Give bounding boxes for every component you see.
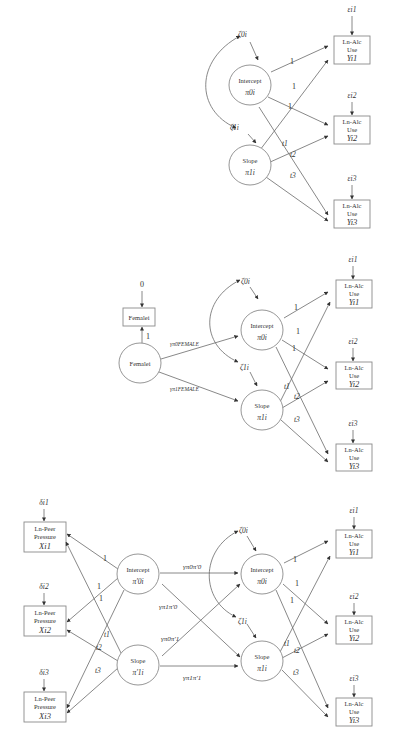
female-observed-box: Femalei — [123, 308, 155, 326]
svg-text:Yi2: Yi2 — [347, 133, 358, 143]
outcome-y2: εi2 Ln-Alc Use Yi2 — [336, 592, 372, 644]
intercept-latent: Intercept π0i — [241, 554, 283, 594]
outcome-y3: εi3 Ln-Alc Use Yi3 — [336, 674, 372, 726]
slope-to-y2 — [268, 136, 328, 163]
outcome-y1: εi1 Ln-Alc Use Yi1 — [334, 5, 370, 64]
svg-text:Yi3: Yi3 — [349, 461, 360, 471]
svg-text:δi3: δi3 — [39, 668, 49, 677]
outcome-y3: εi3 Ln-Alc Use Yi3 — [334, 174, 370, 228]
svg-text:Use: Use — [349, 454, 359, 461]
svg-text:t2: t2 — [294, 646, 300, 655]
svg-text:ζ1i: ζ1i — [238, 617, 247, 626]
predictor-intercept-latent: Intercept π′0i — [117, 554, 159, 594]
predictor-x2: δi2 Ln-Peer Pressure Xi2 — [24, 582, 66, 636]
zeta1-arrow — [248, 134, 256, 143]
svg-text:Xi1: Xi1 — [38, 541, 51, 551]
outcome-y1: εi1 Ln-Alc Use Yi1 — [336, 255, 372, 308]
fixed-zero-label: 0 — [140, 280, 144, 289]
svg-text:Intercept: Intercept — [250, 322, 273, 329]
svg-text:Ln-Alc: Ln-Alc — [345, 364, 364, 371]
svg-text:Pressure: Pressure — [34, 533, 56, 540]
svg-text:Yi2: Yi2 — [349, 633, 360, 643]
svg-text:π′1i: π′1i — [132, 668, 143, 677]
intercept-latent: Intercept π0i — [241, 310, 283, 350]
zeta-covariance-arrow — [210, 280, 240, 362]
svg-text:εi3: εi3 — [350, 674, 359, 683]
slope-latent: Slope π1i — [229, 145, 271, 185]
svg-text:t1: t1 — [284, 639, 290, 648]
outcome-y3: εi3 Ln-Alc Use Yi3 — [336, 419, 372, 471]
svg-text:π0i: π0i — [257, 577, 267, 586]
svg-text:Use: Use — [349, 708, 359, 715]
svg-text:t1: t1 — [284, 382, 290, 391]
svg-text:π1i: π1i — [257, 413, 267, 422]
slope-to-y3 — [266, 177, 328, 221]
intercept-to-y2 — [268, 97, 328, 125]
svg-text:εi3: εi3 — [349, 419, 358, 428]
svg-text:Xi2: Xi2 — [38, 625, 52, 635]
svg-text:1: 1 — [293, 555, 297, 564]
svg-text:1: 1 — [146, 332, 150, 341]
svg-text:t3: t3 — [294, 415, 300, 424]
svg-text:εi2: εi2 — [350, 592, 359, 601]
svg-text:εi3: εi3 — [348, 174, 357, 183]
svg-text:ζ1i: ζ1i — [240, 363, 249, 372]
svg-text:Ln-Alc: Ln-Alc — [343, 202, 362, 209]
slope-to-y1 — [260, 60, 328, 150]
svg-text:γπ1π′0: γπ1π′0 — [159, 603, 178, 611]
svg-text:Slope: Slope — [255, 653, 270, 660]
svg-text:Intercept: Intercept — [250, 566, 273, 573]
svg-text:Ln-Alc: Ln-Alc — [345, 700, 364, 707]
svg-text:Yi3: Yi3 — [347, 217, 358, 227]
svg-text:Xi3: Xi3 — [38, 711, 51, 721]
svg-text:t1: t1 — [104, 630, 110, 639]
panel-c-parallel-process-model: δi1 Ln-Peer Pressure Xi1 δi2 Ln-Peer Pre… — [24, 498, 372, 726]
svg-text:Ln-Alc: Ln-Alc — [343, 38, 362, 45]
svg-text:Yi3: Yi3 — [349, 715, 360, 725]
svg-text:1: 1 — [295, 579, 299, 588]
svg-text:Ln-Peer: Ln-Peer — [35, 609, 57, 616]
svg-text:Ln-Peer: Ln-Peer — [35, 525, 57, 532]
svg-text:1: 1 — [292, 344, 296, 353]
svg-text:Slope: Slope — [243, 157, 258, 164]
svg-text:Pressure: Pressure — [34, 617, 56, 624]
svg-text:γπ1π′1: γπ1π′1 — [183, 674, 201, 682]
svg-text:γπ0FEMALE: γπ0FEMALE — [170, 341, 199, 347]
predictor-slope-latent: Slope π′1i — [117, 645, 159, 685]
predictor-x1: δi1 Ln-Peer Pressure Xi1 — [24, 498, 66, 552]
svg-text:Ln-Alc: Ln-Alc — [345, 618, 364, 625]
svg-text:Femalei: Femalei — [129, 314, 150, 321]
loading-label: t3 — [290, 171, 296, 180]
svg-text:1: 1 — [294, 303, 298, 312]
svg-text:Slope: Slope — [131, 657, 146, 664]
zeta-covariance-arrow — [209, 531, 238, 617]
svg-text:Use: Use — [349, 290, 359, 297]
path-diagram-canvas: ζ0i ζ1i 1 1 1 t1 t2 t3 Intercept π0i Slo… — [0, 0, 396, 740]
svg-text:Use: Use — [349, 626, 359, 633]
svg-text:1: 1 — [103, 554, 107, 563]
outcome-y1: εi1 Ln-Alc Use Yi1 — [336, 506, 372, 558]
svg-text:Use: Use — [347, 46, 357, 53]
female-latent: Femalei — [119, 343, 161, 383]
svg-text:π1i: π1i — [257, 664, 267, 673]
svg-text:1: 1 — [296, 327, 300, 336]
svg-text:εi2: εi2 — [348, 91, 357, 100]
svg-text:π0i: π0i — [257, 333, 267, 342]
loading-label: 1 — [292, 82, 296, 91]
loading-label: 1 — [288, 102, 292, 111]
svg-text:Ln-Alc: Ln-Alc — [345, 446, 364, 453]
svg-text:Ln-Alc: Ln-Alc — [345, 282, 364, 289]
svg-text:Use: Use — [347, 126, 357, 133]
svg-text:ζ0i: ζ0i — [241, 277, 250, 286]
svg-text:ζ0i: ζ0i — [239, 526, 248, 535]
svg-text:Ln-Alc: Ln-Alc — [345, 532, 364, 539]
intercept-to-y1 — [271, 46, 328, 72]
intercept-latent: Intercept π0i — [229, 65, 271, 105]
svg-text:εi1: εi1 — [350, 506, 359, 515]
svg-text:εi1: εi1 — [349, 255, 358, 264]
svg-text:γπ0π′1: γπ0π′1 — [161, 635, 179, 643]
svg-text:Intercept: Intercept — [238, 77, 261, 84]
predictor-x3: δi3 Ln-Peer Pressure Xi3 — [24, 668, 66, 722]
svg-text:t3: t3 — [293, 668, 299, 677]
outcome-y2: εi2 Ln-Alc Use Yi2 — [336, 337, 372, 389]
